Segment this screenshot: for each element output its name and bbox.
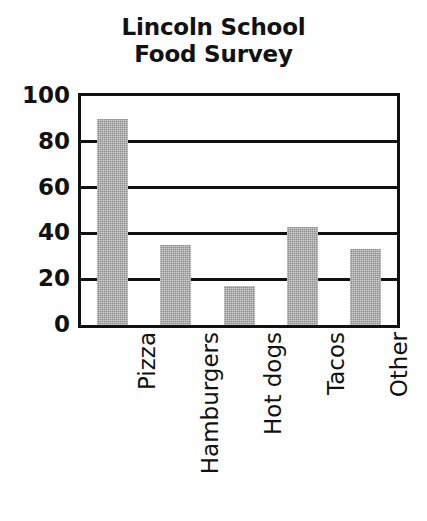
bar-other (350, 249, 381, 325)
bar-tacos (287, 227, 318, 325)
bar-hamburgers (160, 245, 191, 325)
y-tick-label-100: 100 (0, 84, 70, 107)
y-tick-label-0: 0 (0, 313, 70, 336)
chart-title-line-2: Food Survey (0, 41, 427, 68)
x-label-hot-dogs: Hot dogs (256, 332, 290, 512)
y-tick-label-80: 80 (0, 130, 70, 153)
bar-hot-dogs (224, 286, 255, 325)
y-tick-label-40: 40 (0, 221, 70, 244)
bars-group (81, 96, 397, 325)
bar-pizza (97, 119, 128, 325)
chart-title-line-1: Lincoln School (0, 14, 427, 41)
x-label-other: Other (382, 332, 416, 512)
y-tick-label-60: 60 (0, 176, 70, 199)
x-axis-category-labels: PizzaHamburgersHot dogsTacosOther (78, 332, 400, 517)
y-tick-label-20: 20 (0, 267, 70, 290)
chart-title: Lincoln School Food Survey (0, 14, 427, 68)
plot-inner (81, 96, 397, 325)
x-label-tacos: Tacos (319, 332, 353, 512)
x-label-hamburgers: Hamburgers (193, 332, 227, 512)
x-label-pizza: Pizza (130, 332, 164, 512)
y-axis-tick-labels: 020406080100 (0, 93, 70, 328)
plot-area (78, 93, 400, 328)
